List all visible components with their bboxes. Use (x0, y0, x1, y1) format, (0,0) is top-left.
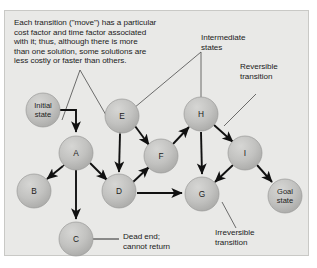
node-I[interactable]: I (228, 136, 262, 170)
node-E-label: E (119, 111, 125, 121)
node-G-label: G (199, 189, 205, 199)
caption-text: Each transition ("move") has a particula… (14, 18, 189, 66)
edge-E-D (119, 134, 120, 172)
edge-I-goal (257, 165, 272, 182)
node-D-label: D (116, 186, 122, 196)
edge-E-F (135, 126, 149, 145)
edge-initial-A (60, 110, 76, 132)
node-A-label: A (73, 148, 79, 158)
edge-A-D (90, 163, 107, 180)
reversible-leader-line (224, 94, 256, 126)
node-G[interactable]: G (185, 177, 219, 211)
node-I-label: I (244, 148, 246, 158)
edge-H-G (201, 132, 202, 174)
node-initial-line2: state (35, 110, 51, 119)
node-B-label: B (31, 186, 37, 196)
label-reversible-transition: Reversible transition (240, 62, 278, 81)
label-dead-end: Dead end; cannot return (123, 232, 170, 251)
node-H[interactable]: H (184, 97, 218, 131)
caption-leader-left-line (62, 70, 80, 120)
node-A[interactable]: A (59, 136, 93, 170)
edge-H-I (214, 125, 233, 142)
node-F-label: F (158, 151, 163, 161)
node-E[interactable]: E (105, 99, 139, 133)
node-goal-line1: Goal (277, 187, 293, 196)
irreversible-leader-line (222, 202, 236, 228)
node-C[interactable]: C (59, 222, 93, 256)
edge-I-G (215, 165, 233, 182)
node-C-label: C (73, 234, 79, 244)
label-irreversible-transition: Irreversible transition (215, 228, 254, 247)
node-F[interactable]: F (144, 139, 178, 173)
node-initial-line1: Initial (34, 101, 52, 110)
node-B[interactable]: B (17, 174, 51, 208)
node-D[interactable]: D (102, 174, 136, 208)
edge-A-B (47, 166, 63, 179)
edge-F-H (173, 127, 189, 144)
label-intermediate-states: Intermediate states (201, 33, 245, 52)
node-goal-line2: state (277, 196, 293, 205)
diagram-figure: Initial state A B C D E (0, 0, 317, 268)
node-initial[interactable]: Initial state (26, 93, 60, 127)
node-goal[interactable]: Goal state (268, 179, 302, 213)
edge-D-F (132, 167, 149, 183)
node-H-label: H (198, 109, 204, 119)
